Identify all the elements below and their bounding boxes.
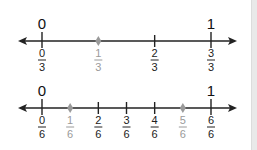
number-line-diagram: 01031323330106162636465666 [0, 0, 257, 150]
number-line-thirds: 0103132333 [18, 15, 237, 73]
numerator: 6 [208, 114, 214, 126]
point-marker [180, 103, 186, 113]
numerator: 3 [208, 47, 214, 59]
fraction-label: 23 [151, 47, 159, 73]
denominator: 6 [152, 128, 158, 140]
fraction-label: 13 [94, 47, 102, 73]
denominator: 3 [152, 61, 158, 73]
numerator: 2 [152, 47, 158, 59]
denominator: 6 [180, 128, 186, 140]
fraction-label: 46 [151, 114, 159, 140]
fraction-label: 16 [66, 114, 74, 140]
fraction-label: 26 [94, 114, 102, 140]
numerator: 0 [39, 114, 45, 126]
denominator: 6 [67, 128, 73, 140]
label-zero: 0 [38, 82, 46, 99]
denominator: 6 [208, 128, 214, 140]
fraction-label: 03 [38, 47, 46, 73]
numerator: 1 [95, 47, 101, 59]
denominator: 6 [95, 128, 101, 140]
point-marker [95, 36, 101, 46]
denominator: 3 [208, 61, 214, 73]
numerator: 0 [39, 47, 45, 59]
denominator: 3 [39, 61, 45, 73]
point-marker [67, 103, 73, 113]
numerator: 1 [67, 114, 73, 126]
denominator: 3 [95, 61, 101, 73]
numerator: 4 [152, 114, 158, 126]
number-line-sixths: 0106162636465666 [18, 82, 237, 140]
numerator: 2 [95, 114, 101, 126]
fraction-label: 06 [38, 114, 46, 140]
label-zero: 0 [38, 15, 46, 32]
label-one: 1 [207, 15, 215, 32]
label-one: 1 [207, 82, 215, 99]
fraction-label: 33 [207, 47, 215, 73]
denominator: 6 [39, 128, 45, 140]
fraction-label: 56 [179, 114, 187, 140]
denominator: 6 [123, 128, 129, 140]
numerator: 5 [180, 114, 186, 126]
numerator: 3 [123, 114, 129, 126]
fraction-label: 66 [207, 114, 215, 140]
fraction-label: 36 [123, 114, 131, 140]
